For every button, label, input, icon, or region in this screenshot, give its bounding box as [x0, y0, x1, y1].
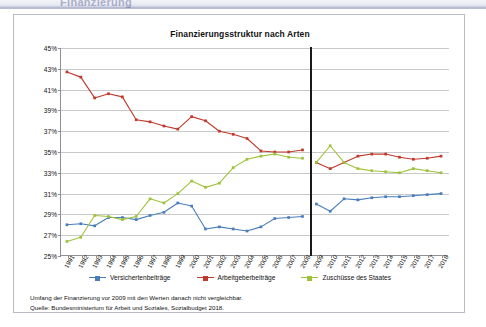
x-axis-label: 2010 [326, 254, 339, 270]
x-axis-label: 2002 [215, 254, 228, 270]
data-point [79, 222, 82, 225]
data-point [412, 167, 415, 170]
x-axis-label: 1999 [173, 254, 186, 270]
data-point [315, 203, 318, 206]
data-point [66, 223, 69, 226]
data-point [357, 198, 360, 201]
y-axis-label: 27% [44, 232, 57, 239]
data-point [426, 157, 429, 160]
series-line [67, 203, 303, 231]
x-axis-label: 2000 [187, 254, 200, 270]
y-axis-label: 39% [44, 107, 57, 114]
data-point [232, 133, 235, 136]
y-axis-label: 31% [44, 190, 57, 197]
page-top-strip: Finanzierung [0, 0, 486, 9]
x-axis-label: 1992 [76, 254, 89, 270]
x-axis-label: 2001 [201, 254, 214, 270]
data-point [440, 192, 443, 195]
x-axis-label: 2016 [409, 254, 422, 270]
x-axis-label: 2015 [395, 254, 408, 270]
data-point [440, 171, 443, 174]
x-axis-label: 1993 [90, 254, 103, 270]
x-axis-label: 1997 [146, 254, 159, 270]
x-axis-label: 1991 [62, 254, 75, 270]
legend-item[interactable]: Arbeitgeberbeiträge [197, 274, 276, 281]
series-line [67, 154, 303, 241]
data-point [218, 226, 221, 229]
data-point [79, 76, 82, 79]
data-point [398, 195, 401, 198]
x-axis-label: 2013 [367, 254, 380, 270]
y-axis-label: 29% [44, 211, 57, 218]
data-point [246, 158, 249, 161]
data-point [426, 169, 429, 172]
legend-label: Versichertenbeiträge [110, 274, 170, 281]
data-point [135, 218, 138, 221]
data-point [66, 71, 69, 74]
data-point [232, 166, 235, 169]
data-point [315, 161, 318, 164]
data-point [357, 155, 360, 158]
data-point [370, 169, 373, 172]
y-axis-label: 33% [44, 169, 57, 176]
data-point [370, 153, 373, 156]
chart-card: Finanzierungsstruktur nach Arten 25%27%2… [13, 14, 465, 313]
series-versichertenbeitr-ge [66, 192, 443, 232]
x-axis-label: 2011 [340, 254, 353, 269]
data-point [412, 194, 415, 197]
data-point [135, 118, 138, 121]
data-point [287, 216, 290, 219]
data-point [426, 193, 429, 196]
data-point [301, 157, 304, 160]
data-point [176, 128, 179, 131]
x-axis-label: 2007 [284, 254, 297, 270]
x-axis-label: 1994 [104, 254, 117, 270]
legend-item[interactable]: Zuschüsse des Staates [301, 274, 391, 281]
data-point [163, 202, 166, 205]
legend-swatch-icon [89, 274, 106, 281]
plot-wrapper: 25%27%29%31%33%35%37%39%41%43%45% 199119… [60, 48, 448, 256]
data-point [260, 155, 263, 158]
y-axis-label: 35% [44, 149, 57, 156]
data-point [190, 205, 193, 208]
data-point [107, 215, 110, 218]
data-point [329, 210, 332, 213]
data-point [301, 215, 304, 218]
series-line [316, 154, 441, 169]
data-point [370, 196, 373, 199]
data-point [398, 171, 401, 174]
data-point [287, 151, 290, 154]
data-point [329, 144, 332, 147]
data-point [93, 214, 96, 217]
series-line [316, 146, 441, 173]
y-axis-label: 43% [44, 65, 57, 72]
x-axis-label: 2005 [256, 254, 269, 270]
data-point [149, 214, 152, 217]
y-axis-tick [58, 256, 61, 257]
data-point [232, 228, 235, 231]
data-point [260, 150, 263, 153]
data-point [204, 119, 207, 122]
series-line [67, 72, 303, 152]
data-point [357, 167, 360, 170]
x-axis-label: 2017 [423, 254, 436, 270]
data-point [440, 155, 443, 158]
partial-header-text: Finanzierung [60, 0, 132, 8]
data-point [163, 211, 166, 214]
footnote-line-2: Quelle: Bundesministerium für Arbeit und… [30, 303, 450, 313]
data-point [384, 153, 387, 156]
data-point [176, 202, 179, 205]
x-axis-label: 2014 [381, 254, 394, 270]
series-arbeitgeberbeitr-ge [66, 71, 443, 170]
legend-label: Zuschüsse des Staates [322, 274, 391, 281]
data-point [204, 228, 207, 231]
data-point [218, 182, 221, 185]
data-point [343, 161, 346, 164]
x-axis-label: 2012 [353, 254, 366, 270]
data-point [176, 192, 179, 195]
legend-item[interactable]: Versichertenbeiträge [89, 274, 170, 281]
data-point [398, 156, 401, 159]
y-axis-label: 25% [44, 253, 57, 260]
data-point [149, 120, 152, 123]
data-point [246, 230, 249, 233]
